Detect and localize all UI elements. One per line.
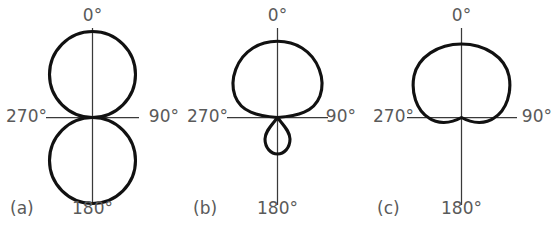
radiation-pattern-figure: 0° 180° 270° 90° (a) 0° 180° 270° 90° (b… [0,0,554,231]
angle-label-90: 90° [326,108,356,125]
panel-tag-c: (c) [377,200,400,217]
angle-label-90: 90° [149,108,179,125]
angle-label-180: 180° [72,200,113,217]
angle-label-90: 90° [522,108,552,125]
angle-label-180: 180° [257,200,298,217]
angle-label-0: 0° [83,7,102,24]
panel-tag-b: (b) [193,200,217,217]
angle-label-270: 270° [187,108,228,125]
panel-a: 0° 180° 270° 90° (a) [0,0,185,231]
angle-label-270: 270° [6,108,47,125]
angle-label-0: 0° [452,7,471,24]
angle-label-180: 180° [441,200,482,217]
angle-label-0: 0° [268,7,287,24]
panel-tag-a: (a) [10,200,34,217]
angle-label-270: 270° [373,108,414,125]
panel-c: 0° 180° 270° 90° (c) [369,0,554,231]
panel-b: 0° 180° 270° 90° (b) [185,0,370,231]
